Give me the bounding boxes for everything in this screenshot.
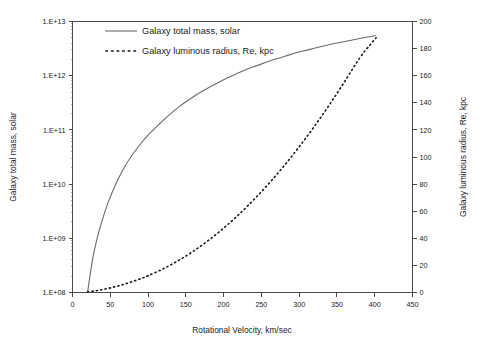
legend-label-galaxy-total-mass: Galaxy total mass, solar: [142, 26, 240, 36]
x-axis-major-ticks: [73, 293, 413, 297]
right-tick-label-3: 60: [420, 207, 428, 216]
right-tick-label-1: 20: [420, 261, 428, 270]
x-axis-tick-labels: 050100150200250300350400450: [71, 300, 419, 309]
left-axis-title: Galaxy total mass, solar: [8, 112, 18, 202]
right-axis-title: Galaxy luminous radius, Re, kpc: [458, 97, 468, 217]
x-tick-label-2: 100: [142, 300, 154, 309]
series-galaxy-total-mass: [88, 36, 377, 293]
x-axis-title: Rotational Velocity, km/sec: [192, 325, 291, 335]
chart-figure: 1.E+081.E+091.E+101.E+111.E+121.E+13 020…: [0, 0, 481, 340]
right-tick-label-2: 40: [420, 234, 428, 243]
left-tick-label-5: 1.E+13: [43, 17, 66, 26]
x-tick-label-4: 200: [218, 300, 230, 309]
left-tick-label-4: 1.E+12: [43, 71, 66, 80]
right-tick-label-10: 200: [420, 17, 432, 26]
left-tick-label-1: 1.E+09: [43, 234, 66, 243]
right-tick-label-4: 80: [420, 180, 428, 189]
x-tick-label-6: 300: [293, 300, 305, 309]
chart-canvas: 1.E+081.E+091.E+101.E+111.E+121.E+13 020…: [0, 0, 481, 340]
left-axis-major-ticks: [69, 22, 73, 293]
right-tick-label-0: 0: [420, 288, 424, 297]
chart-legend: Galaxy total mass, solar Galaxy luminous…: [105, 26, 274, 56]
right-tick-label-7: 140: [420, 98, 432, 107]
left-tick-label-0: 1.E+08: [43, 288, 66, 297]
x-tick-label-8: 400: [369, 300, 381, 309]
right-axis-major-ticks: [413, 22, 417, 293]
plot-frame: [73, 22, 413, 293]
right-axis-tick-labels: 020406080100120140160180200: [420, 17, 432, 297]
x-tick-label-7: 350: [331, 300, 343, 309]
left-tick-label-2: 1.E+10: [43, 180, 66, 189]
x-tick-label-0: 0: [71, 300, 75, 309]
right-tick-label-6: 120: [420, 126, 432, 135]
x-tick-label-1: 50: [106, 300, 114, 309]
x-tick-label-9: 450: [407, 300, 419, 309]
right-tick-label-9: 180: [420, 44, 432, 53]
left-tick-label-3: 1.E+11: [43, 126, 65, 135]
x-tick-label-3: 150: [180, 300, 192, 309]
right-tick-label-5: 100: [420, 153, 432, 162]
right-tick-label-8: 160: [420, 71, 432, 80]
left-axis-tick-labels: 1.E+081.E+091.E+101.E+111.E+121.E+13: [43, 17, 66, 297]
x-tick-label-5: 250: [255, 300, 267, 309]
legend-label-galaxy-luminous-radius: Galaxy luminous radius, Re, kpc: [142, 46, 274, 56]
